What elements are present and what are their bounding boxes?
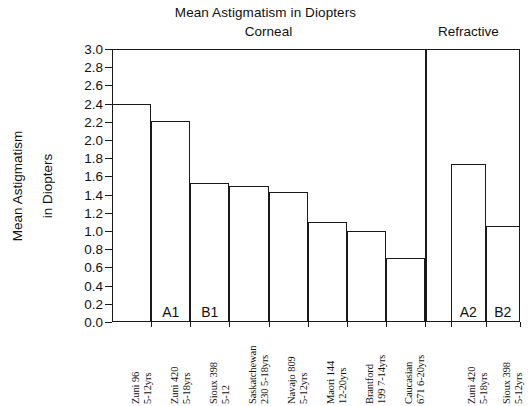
x-axis-tick	[520, 322, 521, 327]
y-axis-tick-label: 2.8	[84, 60, 103, 75]
plot-area: A1B1A2B2	[112, 49, 520, 322]
y-axis-tick	[105, 195, 112, 196]
y-axis-tick-label: 2.2	[84, 114, 103, 129]
x-axis-label-line-1: Maori 144	[325, 361, 336, 404]
bar	[451, 164, 486, 322]
y-axis-tick	[105, 304, 112, 305]
y-axis-tick	[105, 122, 112, 123]
group-annotation-a2: A2	[451, 304, 486, 320]
x-axis-label-line-1: Saskatchewan	[247, 346, 258, 404]
x-axis-label-line-2: 5-12yrs	[513, 373, 524, 404]
group-annotation-a1: A1	[151, 304, 190, 320]
x-axis-label-line-2: 5-18yrs	[181, 373, 192, 404]
x-axis-label-line-1: Zuni 420	[169, 367, 180, 404]
y-axis-tick	[105, 267, 112, 268]
y-axis-tick-label: 3.0	[84, 42, 103, 57]
x-axis-label-line-1: Brantford	[364, 364, 375, 404]
x-axis-label-line-1: Sioux 398	[208, 362, 219, 404]
bar	[269, 192, 308, 322]
x-axis-tick	[347, 322, 348, 327]
x-axis-label-line-2: 12-20yrs	[337, 367, 348, 404]
y-axis-tick	[105, 231, 112, 232]
y-axis-tick	[105, 67, 112, 68]
x-axis-label-line-2: 5-18yrs	[478, 373, 489, 404]
y-axis-tick	[105, 104, 112, 105]
y-axis-tick-label: 1.6	[84, 169, 103, 184]
y-axis-tick	[105, 140, 112, 141]
y-axis-tick	[105, 249, 112, 250]
y-axis-tick	[105, 176, 112, 177]
y-axis-tick-label: 0.8	[84, 242, 103, 257]
y-axis-tick-label: 0.4	[84, 278, 103, 293]
x-axis-label-line-2: 5-12yrs	[298, 373, 309, 404]
x-axis-tick	[386, 322, 387, 327]
y-axis-tick-label: 2.0	[84, 133, 103, 148]
y-axis-tick-label: 0.0	[84, 315, 103, 330]
bar	[347, 231, 386, 322]
bar	[112, 104, 151, 322]
bar	[229, 186, 268, 322]
bar	[151, 121, 190, 322]
x-axis-label-line-2: 5-12yrs	[142, 373, 153, 404]
y-axis-tick-label: 1.8	[84, 151, 103, 166]
bar	[190, 183, 229, 322]
y-axis-tick	[105, 322, 112, 323]
x-axis-tick	[425, 322, 426, 327]
y-axis-tick-label: 0.2	[84, 296, 103, 311]
x-axis-tick	[190, 322, 191, 327]
x-axis-tick	[308, 322, 309, 327]
x-axis-ticks	[112, 322, 520, 328]
y-axis-tick	[105, 158, 112, 159]
x-axis-label-line-1: Navajo 809	[286, 356, 297, 404]
y-axis-tick	[105, 49, 112, 50]
bar	[308, 222, 347, 322]
y-axis-tick-labels: 3.02.82.62.42.22.01.81.61.41.21.00.80.60…	[60, 49, 103, 322]
group-annotation-b2: B2	[486, 304, 521, 320]
y-axis-tick-label: 0.6	[84, 260, 103, 275]
group-annotation-b1: B1	[190, 304, 229, 320]
y-axis-tick	[105, 213, 112, 214]
section-label-refractive: Refractive	[426, 24, 531, 39]
x-axis-label-line-2: 230 5-18yrs	[259, 355, 270, 404]
x-axis-tick	[451, 322, 452, 327]
x-axis-label-line-2: 199 7-14yrs	[376, 355, 387, 404]
section-divider	[425, 49, 427, 322]
y-axis-tick-label: 1.2	[84, 205, 103, 220]
x-axis-tick	[151, 322, 152, 327]
y-axis-tick-label: 2.6	[84, 78, 103, 93]
section-label-corneal: Corneal	[112, 24, 425, 39]
x-axis-tick	[229, 322, 230, 327]
x-axis-tick	[269, 322, 270, 327]
y-axis-title: Mean Astigmatism in Diopters	[0, 49, 62, 322]
astigmatism-bar-chart: Mean Astigmatism in Diopters Corneal Ref…	[0, 0, 531, 406]
y-axis-title-line-1: Mean Astigmatism	[10, 130, 25, 240]
chart-title: Mean Astigmatism in Diopters	[0, 5, 531, 20]
x-axis-label-line-1: Caucasian	[403, 362, 414, 404]
y-axis-tick-label: 1.4	[84, 187, 103, 202]
y-axis-tick	[105, 85, 112, 86]
y-axis-tick-label: 1.0	[84, 224, 103, 239]
x-axis-tick	[486, 322, 487, 327]
y-axis-title-line-2: in Diopters	[40, 153, 55, 218]
x-axis-label-line-1: Sioux 398	[501, 362, 512, 404]
y-axis-ticks	[105, 49, 112, 322]
y-axis-tick-label: 2.4	[84, 96, 103, 111]
x-axis-label-line-2: 5-12	[220, 385, 231, 404]
x-axis-category-labels: Zuni 965-12yrsZuni 4205-18yrsSioux 3985-…	[112, 322, 520, 406]
y-axis-tick	[105, 286, 112, 287]
bar	[386, 258, 425, 322]
x-axis-label-line-1: Zuni 420	[466, 367, 477, 404]
x-axis-label-line-1: Zuni 96	[130, 372, 141, 404]
x-axis-label-line-2: 671 6-20yrs	[415, 355, 426, 404]
